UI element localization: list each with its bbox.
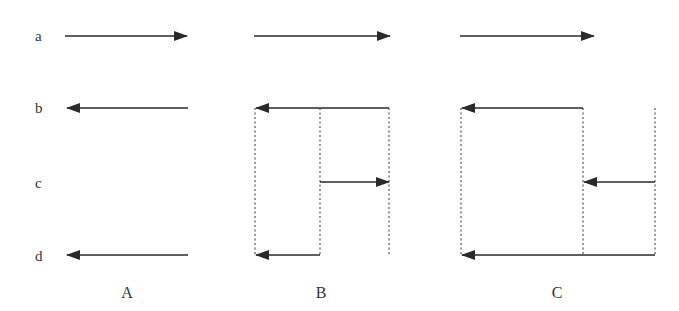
panel-a: A	[65, 36, 188, 301]
row-label-d: d	[35, 248, 43, 264]
row-labels: abcd	[35, 28, 43, 264]
panels: ABC	[65, 36, 655, 301]
panel-b: B	[254, 36, 390, 301]
panel-label: C	[552, 284, 563, 301]
arrow-diagram: abcd ABC	[0, 0, 679, 311]
panel-label: A	[121, 284, 133, 301]
panel-c: C	[460, 36, 655, 301]
diagram-canvas: abcd ABC	[0, 0, 679, 311]
row-label-c: c	[35, 175, 42, 191]
panel-label: B	[316, 284, 327, 301]
row-label-b: b	[35, 100, 43, 116]
row-label-a: a	[35, 28, 42, 44]
